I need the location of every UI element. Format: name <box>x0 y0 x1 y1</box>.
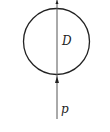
force-arrowhead-icon <box>55 76 59 83</box>
force-label: p <box>61 103 69 115</box>
diameter-label: D <box>62 35 72 47</box>
top-arrow-tip-icon <box>56 0 59 4</box>
diagram-canvas <box>0 0 110 132</box>
